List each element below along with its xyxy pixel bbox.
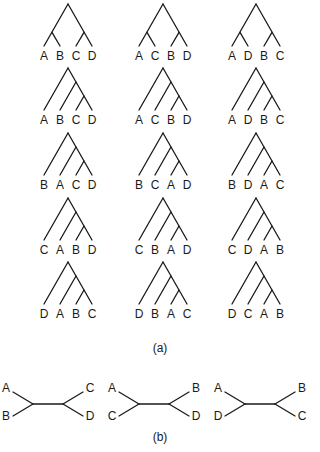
tree-branch — [264, 32, 272, 46]
tree-branch — [13, 392, 33, 404]
leaf-label: B — [56, 113, 64, 127]
leaf-label: B — [260, 49, 268, 63]
leaf-label: C — [276, 178, 285, 192]
leaf-label: B — [228, 178, 236, 192]
tree-branch — [232, 68, 256, 110]
tree-branch — [171, 96, 179, 110]
leaf-label: B — [2, 409, 10, 423]
unrooted-tree: ADBC — [214, 381, 307, 423]
leaf-label: A — [214, 381, 222, 395]
leaf-label: B — [151, 307, 159, 321]
leaf-label: C — [88, 307, 97, 321]
tree-branch — [76, 290, 84, 304]
leaf-label: C — [276, 49, 285, 63]
tree-branch — [60, 147, 76, 175]
rooted-tree: ABCD — [40, 4, 97, 63]
rooted-tree: BDAC — [228, 133, 285, 192]
rooted-tree: ADBC — [228, 4, 285, 63]
leaf-label: D — [183, 178, 192, 192]
tree-branch — [225, 404, 245, 416]
leaf-label: D — [88, 178, 97, 192]
tree-branch — [119, 404, 139, 416]
panel-b-caption: (b) — [153, 430, 168, 444]
tree-branch — [264, 161, 272, 175]
tree-branch — [60, 212, 76, 240]
leaf-label: A — [228, 113, 236, 127]
leaf-label: A — [40, 49, 48, 63]
tree-branch — [171, 32, 179, 46]
leaf-label: D — [244, 49, 253, 63]
tree-branch — [119, 392, 139, 404]
leaf-label: A — [2, 381, 10, 395]
phylogenetic-tree-figure: ABCDACBDADBCABCDACBDADBCBACDBCADBDACCABD… — [0, 0, 320, 452]
leaf-label: A — [167, 307, 175, 321]
tree-branch — [76, 226, 84, 240]
leaf-label: A — [108, 381, 116, 395]
leaf-label: A — [260, 243, 268, 257]
tree-branch — [155, 82, 171, 110]
leaf-label: D — [183, 49, 192, 63]
leaf-label: A — [135, 49, 143, 63]
leaf-label: D — [192, 409, 201, 423]
tree-branch — [52, 32, 60, 46]
leaf-label: C — [72, 178, 81, 192]
leaf-label: C — [72, 49, 81, 63]
leaf-label: A — [56, 178, 64, 192]
tree-branch — [76, 96, 84, 110]
rooted-tree: CABD — [40, 198, 97, 257]
tree-branch — [264, 226, 272, 240]
leaf-label: D — [228, 307, 237, 321]
leaf-label: B — [72, 307, 80, 321]
leaf-label: B — [298, 381, 306, 395]
tree-branch — [171, 161, 179, 175]
leaf-label: A — [135, 113, 143, 127]
tree-branch — [155, 276, 171, 304]
leaf-label: A — [260, 307, 268, 321]
leaf-label: C — [86, 381, 95, 395]
leaf-label: A — [167, 243, 175, 257]
tree-branch — [248, 147, 264, 175]
leaf-label: C — [228, 243, 237, 257]
tree-branch — [232, 133, 256, 175]
leaf-label: A — [260, 178, 268, 192]
tree-branch — [248, 212, 264, 240]
leaf-label: B — [167, 49, 175, 63]
tree-branch — [240, 32, 248, 46]
leaf-label: A — [228, 49, 236, 63]
tree-branch — [13, 404, 33, 416]
panel-b-unrooted-trees: ABCDACBDADBC — [2, 381, 307, 423]
tree-branch — [248, 276, 264, 304]
tree-branch — [171, 226, 179, 240]
tree-branch — [275, 392, 295, 404]
tree-branch — [225, 392, 245, 404]
leaf-label: B — [167, 113, 175, 127]
tree-branch — [147, 32, 155, 46]
leaf-label: D — [88, 243, 97, 257]
leaf-label: D — [86, 409, 95, 423]
leaf-label: D — [88, 49, 97, 63]
leaf-label: A — [56, 307, 64, 321]
tree-branch — [76, 161, 84, 175]
rooted-tree: CBAD — [135, 198, 192, 257]
leaf-label: B — [276, 243, 284, 257]
leaf-label: D — [88, 113, 97, 127]
unrooted-tree: ACBD — [108, 381, 201, 423]
leaf-label: D — [244, 243, 253, 257]
leaf-label: B — [40, 178, 48, 192]
tree-branch — [44, 68, 68, 110]
leaf-label: D — [183, 243, 192, 257]
leaf-label: C — [183, 307, 192, 321]
rooted-tree: ABCD — [40, 68, 97, 127]
tree-branch — [60, 82, 76, 110]
rooted-tree: DBAC — [135, 262, 192, 321]
tree-branch — [44, 198, 68, 240]
leaf-label: C — [151, 49, 160, 63]
leaf-label: D — [40, 307, 49, 321]
tree-branch — [169, 404, 189, 416]
tree-branch — [44, 262, 68, 304]
leaf-label: D — [135, 307, 144, 321]
tree-branch — [139, 68, 163, 110]
tree-branch — [232, 198, 256, 240]
tree-branch — [63, 404, 83, 416]
leaf-label: B — [56, 49, 64, 63]
